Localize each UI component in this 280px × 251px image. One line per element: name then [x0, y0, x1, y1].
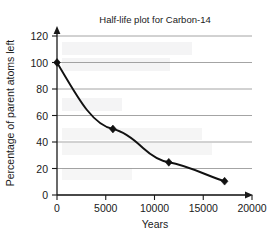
y-tick-label: 40 — [36, 136, 48, 148]
y-tick-label: 100 — [30, 57, 48, 69]
chart-title: Half-life plot for Carbon-14 — [99, 14, 210, 25]
x-tick-label: 0 — [54, 202, 60, 214]
x-tick-label: 10000 — [140, 202, 169, 214]
x-axis-title: Years — [142, 218, 168, 230]
y-tick-label: 20 — [36, 163, 48, 175]
y-tick-label: 60 — [36, 110, 48, 122]
y-axis-title: Percentage of parent atoms left — [4, 40, 16, 187]
x-tick-label: 20000 — [237, 202, 266, 214]
x-tick-label: 15000 — [189, 202, 218, 214]
y-tick-label: 0 — [42, 189, 48, 201]
y-tick-label: 120 — [30, 30, 48, 42]
half-life-plot-svg: Half-life plot for Carbon-14 — [0, 0, 280, 251]
chart-figure: Half-life plot for Carbon-14 — [0, 0, 280, 251]
x-tick-label: 5000 — [94, 202, 118, 214]
y-tick-label: 80 — [36, 83, 48, 95]
